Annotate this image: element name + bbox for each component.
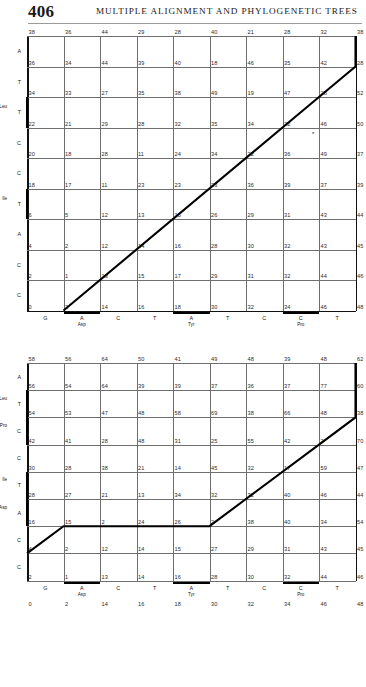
figure-bottom-matrix: 5856645041494839486256546439393736377760… xyxy=(0,355,366,685)
page-number: 406 xyxy=(28,2,54,22)
optimal-score-marker: * xyxy=(312,131,314,137)
running-head: MULTIPLE ALIGNMENT AND PHYLOGENETIC TREE… xyxy=(96,6,362,16)
page-header: 406 MULTIPLE ALIGNMENT AND PHYLOGENETIC … xyxy=(0,0,366,26)
traceback-path-top xyxy=(0,28,366,338)
traceback-path-bottom xyxy=(0,355,366,685)
traceback-polyline xyxy=(27,363,356,553)
figure-top-matrix: 3836442928402128323836344439401846354228… xyxy=(0,28,366,338)
header-rule xyxy=(28,23,362,24)
traceback-polyline xyxy=(64,36,356,311)
